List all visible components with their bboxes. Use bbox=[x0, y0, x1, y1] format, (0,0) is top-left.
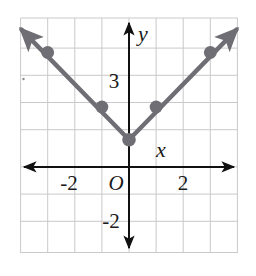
print-speck bbox=[22, 78, 24, 80]
graph-point bbox=[41, 46, 54, 59]
origin-label: O bbox=[108, 171, 123, 195]
graph-svg: x y O -2 2 3 -2 bbox=[0, 0, 256, 276]
graph-point bbox=[96, 101, 109, 114]
graph-point bbox=[204, 46, 217, 59]
graph-point-vertex bbox=[122, 133, 136, 147]
graph-point bbox=[150, 101, 163, 114]
y-tick-label-neg2: -2 bbox=[102, 209, 120, 233]
x-axis-label: x bbox=[155, 137, 166, 162]
y-tick-label-3: 3 bbox=[109, 69, 120, 93]
coordinate-plane-figure: x y O -2 2 3 -2 bbox=[0, 0, 256, 276]
y-axis-label: y bbox=[136, 21, 148, 46]
x-tick-label-neg2: -2 bbox=[60, 171, 78, 195]
x-tick-label-2: 2 bbox=[178, 171, 189, 195]
